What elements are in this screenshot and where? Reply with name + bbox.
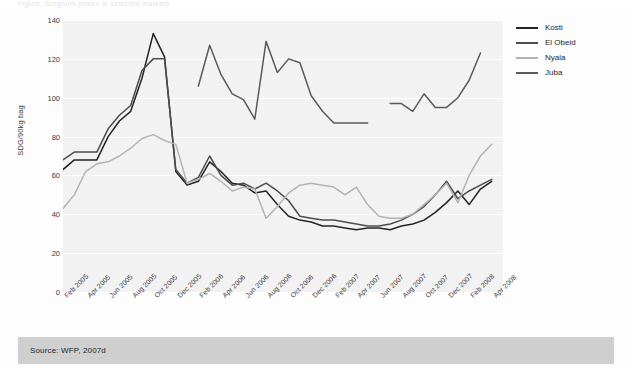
y-axis-tick: 100 (20, 93, 60, 102)
y-axis-tick: 140 (20, 16, 60, 25)
legend-swatch-icon (516, 72, 538, 74)
legend-item-label: El Obeid (545, 38, 576, 47)
figure-card: 020406080100120140 SDG/90kg bag Feb 2005… (0, 8, 632, 368)
y-axis-tick: 20 (20, 249, 60, 258)
legend-item-kosti[interactable]: Kosti (516, 20, 626, 35)
gridline (63, 292, 503, 293)
legend-item-label: Juba (545, 68, 562, 77)
y-axis-tick: 120 (20, 54, 60, 63)
chart-lines-layer (63, 20, 503, 292)
legend-item-juba[interactable]: Juba (516, 65, 626, 80)
series-line-juba (390, 53, 480, 111)
top-cropped-strip: Figure: Sorghum prices in selected marke… (0, 0, 632, 8)
source-bar: Source: WFP, 2007d (18, 337, 614, 364)
series-line-kosti (63, 34, 492, 230)
series-line-nyala (63, 135, 492, 219)
figure-root: Figure: Sorghum prices in selected marke… (0, 0, 632, 368)
y-axis-tick: 40 (20, 210, 60, 219)
legend-swatch-icon (516, 42, 538, 44)
legend-item-label: Kosti (545, 23, 563, 32)
legend-swatch-icon (516, 57, 538, 59)
legend-swatch-icon (516, 27, 538, 29)
cropped-title-ghost: Figure: Sorghum prices in selected marke… (18, 0, 170, 7)
y-axis-title: SDG/90kg bag (16, 81, 25, 181)
y-axis-tick: 60 (20, 171, 60, 180)
legend-item-el-obeid[interactable]: El Obeid (516, 35, 626, 50)
legend-item-label: Nyala (545, 53, 565, 62)
series-line-juba (198, 41, 367, 123)
chart-legend: KostiEl ObeidNyalaJuba (516, 20, 626, 80)
legend-item-nyala[interactable]: Nyala (516, 50, 626, 65)
y-axis-tick: 0 (20, 288, 60, 297)
y-axis-tick: 80 (20, 132, 60, 141)
source-note: Source: WFP, 2007d (30, 346, 106, 355)
